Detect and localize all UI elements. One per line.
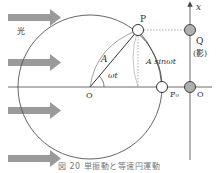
point-P0: [157, 82, 168, 93]
label-axis-origin-O: O: [197, 90, 204, 99]
label-projection: A sinωt: [145, 57, 177, 66]
label-amplitude: A: [100, 54, 108, 64]
light-label: 光: [17, 26, 25, 36]
diagram-canvas: 光 P Q (影) x A ωt A sinωt O P₀ O: [0, 0, 218, 173]
figure-caption: 図 20 単振動と等速円運動: [0, 160, 218, 171]
label-x-axis: x: [196, 2, 201, 12]
label-P0: P₀: [170, 90, 179, 99]
label-angle: ωt: [108, 71, 119, 80]
projection-brace-inner: [133, 30, 138, 87]
point-origin-shadow: [185, 82, 196, 93]
label-Q: Q: [196, 36, 203, 46]
light-arrow-icon: [8, 54, 61, 71]
label-shadow: (影): [193, 48, 207, 58]
point-Q-shadow: [185, 25, 196, 36]
light-arrows: [8, 9, 61, 167]
angle-arc: [99, 76, 104, 87]
label-center-O: O: [86, 91, 93, 100]
point-P: [133, 25, 144, 36]
light-arrow-icon: [8, 9, 61, 26]
label-P: P: [140, 14, 146, 24]
light-arrow-icon: [8, 102, 61, 119]
